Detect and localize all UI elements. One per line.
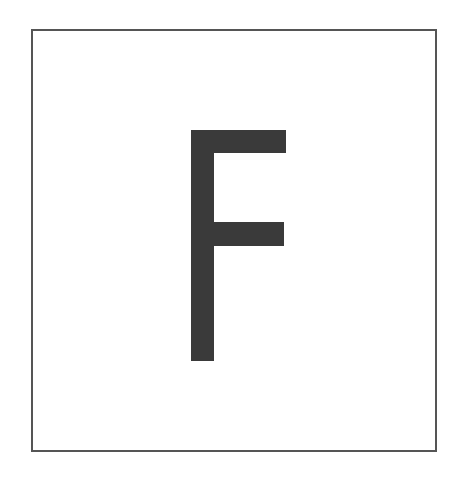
letter-text: F (0, 0, 1, 1)
letter-f-middle-bar (191, 222, 284, 246)
letter-f-top-bar (191, 130, 286, 153)
